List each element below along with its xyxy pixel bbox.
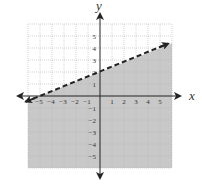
- svg-text:−1: −1: [89, 105, 97, 113]
- svg-text:5: 5: [158, 98, 162, 106]
- svg-text:−2: −2: [71, 98, 79, 106]
- svg-text:−3: −3: [89, 129, 97, 137]
- svg-text:−4: −4: [89, 141, 97, 149]
- svg-text:1: 1: [110, 98, 114, 106]
- svg-text:4: 4: [93, 45, 97, 53]
- svg-text:−3: −3: [59, 98, 67, 106]
- svg-text:−2: −2: [89, 117, 97, 125]
- y-axis-label: y: [94, 0, 102, 13]
- svg-text:−4: −4: [47, 98, 55, 106]
- svg-text:1: 1: [93, 81, 97, 89]
- svg-text:−5: −5: [89, 153, 97, 161]
- x-axis-label: x: [188, 88, 195, 103]
- svg-text:2: 2: [122, 98, 126, 106]
- svg-text:4: 4: [146, 98, 150, 106]
- svg-text:3: 3: [93, 57, 97, 65]
- svg-text:5: 5: [93, 33, 97, 41]
- coordinate-plane: x y −5 −4 −3 −2 −1 1 2 3 4 5 5 4 3 2 1 −…: [0, 0, 202, 189]
- svg-text:−5: −5: [35, 98, 43, 106]
- svg-text:3: 3: [134, 98, 138, 106]
- svg-text:2: 2: [93, 69, 97, 77]
